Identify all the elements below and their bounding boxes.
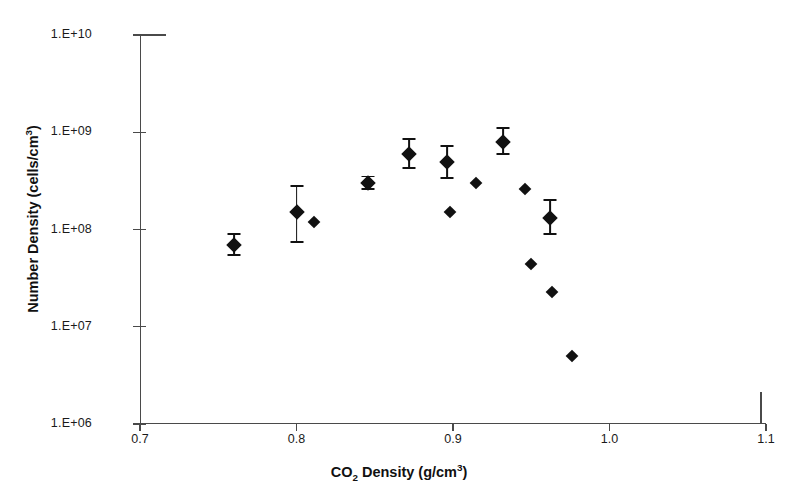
x-axis-end-cap — [760, 392, 762, 424]
y-tick-label: 1.E+06 — [12, 416, 92, 430]
error-bar-cap — [544, 233, 557, 235]
x-tick — [765, 424, 766, 431]
error-bar-cap — [440, 177, 453, 179]
x-tick-label: 0.8 — [267, 432, 327, 446]
error-bar-cap — [544, 199, 557, 201]
x-tick-label: 0.9 — [423, 432, 483, 446]
x-tick-label: 1.1 — [736, 432, 796, 446]
x-tick — [296, 424, 297, 431]
error-bar-cap — [440, 145, 453, 147]
x-tick-label: 0.7 — [110, 432, 170, 446]
error-bar-cap — [290, 241, 303, 243]
error-bar-cap — [497, 153, 510, 155]
y-tick — [133, 132, 146, 133]
y-tick — [133, 326, 146, 327]
y-tick — [133, 34, 146, 35]
figure: 1.E+101.E+091.E+081.E+071.E+06 0.70.80.9… — [0, 0, 798, 504]
x-tick — [139, 424, 140, 431]
x-tick — [609, 424, 610, 431]
error-bar-cap — [227, 233, 240, 235]
x-tick-label: 1.0 — [580, 432, 640, 446]
y-axis-title: Number Density (cells/cm3) — [23, 69, 41, 369]
x-axis-title: CO2 Density (g/cm3) — [0, 462, 798, 483]
y-tick — [133, 229, 146, 230]
error-bar-cap — [403, 138, 416, 140]
error-bar-cap — [497, 127, 510, 129]
error-bar-cap — [227, 254, 240, 256]
error-bar-cap — [290, 185, 303, 187]
x-tick — [452, 424, 453, 431]
y-tick-label: 1.E+10 — [12, 27, 92, 41]
plot-area — [140, 35, 766, 424]
error-bar-cap — [403, 167, 416, 169]
